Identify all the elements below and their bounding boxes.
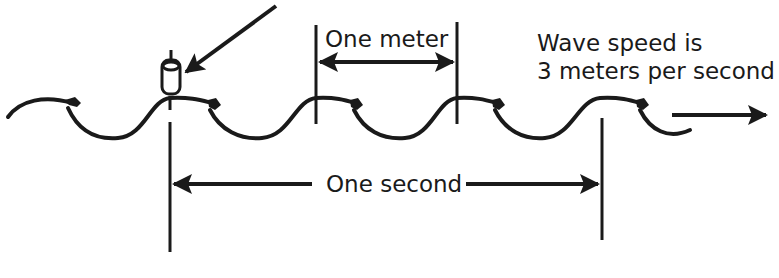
one-second-label: One second xyxy=(322,173,466,196)
float-icon xyxy=(162,50,180,94)
wave-speed-label-line2: 3 meters per second xyxy=(537,60,775,83)
wave-diagram: One meter Wave speed is 3 meters per sec… xyxy=(0,0,779,278)
one-meter-label: One meter xyxy=(325,28,448,51)
wave-speed-label-line1: Wave speed is xyxy=(537,32,703,55)
wave-line xyxy=(8,98,690,138)
pointer-arrow-icon xyxy=(186,6,276,72)
